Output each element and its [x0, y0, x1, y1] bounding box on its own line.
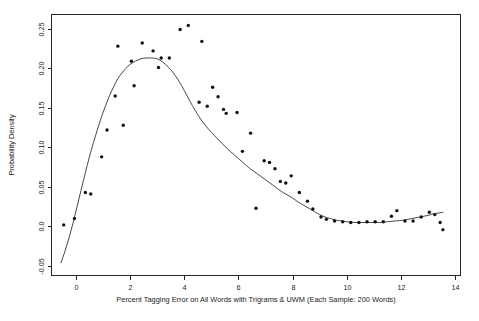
data-point — [333, 219, 336, 222]
data-point — [211, 86, 214, 89]
data-point — [411, 219, 414, 222]
y-tick-label: 0.10 — [37, 141, 46, 155]
data-point — [216, 95, 219, 98]
data-point — [284, 181, 287, 184]
data-point — [225, 112, 228, 115]
x-tick-label: 8 — [292, 283, 296, 292]
y-tick-label: 0.05 — [37, 181, 46, 195]
x-axis-ticks: 02468101214 — [75, 276, 460, 292]
data-point — [441, 228, 444, 231]
data-point — [122, 124, 125, 127]
x-tick-label: 6 — [237, 283, 241, 292]
fitted-density-curve — [61, 58, 443, 263]
data-point — [325, 218, 328, 221]
data-point — [428, 211, 431, 214]
data-point — [178, 28, 181, 31]
y-tick-label: 0.15 — [37, 102, 46, 116]
x-tick-label: 14 — [452, 283, 460, 292]
data-point — [254, 207, 257, 210]
x-axis-title: Percent Tagging Error on All Words with … — [116, 295, 395, 304]
data-point — [141, 41, 144, 44]
data-point — [365, 220, 368, 223]
data-point — [298, 191, 301, 194]
data-point — [130, 59, 133, 62]
density-plot-figure: -0.050.00.050.100.150.200.25 02468101214… — [0, 0, 479, 321]
data-point — [273, 167, 276, 170]
data-point — [433, 213, 436, 216]
plot-canvas: -0.050.00.050.100.150.200.25 02468101214… — [0, 0, 479, 321]
data-point — [168, 56, 171, 59]
data-point — [268, 161, 271, 164]
data-point — [311, 207, 314, 210]
x-tick-label: 4 — [183, 283, 187, 292]
data-point — [403, 219, 406, 222]
data-point — [306, 199, 309, 202]
data-point — [235, 111, 238, 114]
data-point — [319, 215, 322, 218]
data-point — [382, 220, 385, 223]
data-point — [62, 223, 65, 226]
data-point — [206, 105, 209, 108]
y-axis-ticks: -0.050.00.050.100.150.200.25 — [37, 23, 51, 275]
data-point — [113, 94, 116, 97]
data-point — [222, 108, 225, 111]
data-point — [349, 221, 352, 224]
data-point — [197, 101, 200, 104]
data-point — [116, 44, 119, 47]
fitted-curve-layer — [61, 58, 443, 263]
data-point — [341, 220, 344, 223]
y-tick-label: -0.05 — [37, 258, 46, 274]
data-point — [373, 220, 376, 223]
data-point — [249, 131, 252, 134]
data-point — [200, 40, 203, 43]
plot-frame — [52, 15, 461, 276]
x-tick-label: 2 — [129, 283, 133, 292]
data-point — [73, 217, 76, 220]
data-point — [262, 159, 265, 162]
plot-border — [52, 15, 461, 276]
y-axis-title: Probability Density — [7, 114, 16, 176]
data-point — [187, 24, 190, 27]
y-tick-label: 0.0 — [37, 222, 46, 232]
x-tick-label: 0 — [75, 283, 79, 292]
data-point — [420, 215, 423, 218]
data-point — [105, 128, 108, 131]
data-point — [438, 221, 441, 224]
data-point — [132, 84, 135, 87]
data-point — [241, 150, 244, 153]
data-point — [100, 155, 103, 158]
data-point — [290, 174, 293, 177]
data-point — [390, 214, 393, 217]
data-point — [160, 56, 163, 59]
x-tick-label: 10 — [344, 283, 352, 292]
data-point — [279, 180, 282, 183]
data-points-layer — [62, 24, 445, 231]
y-tick-label: 0.20 — [37, 62, 46, 76]
data-point — [151, 49, 154, 52]
data-point — [395, 209, 398, 212]
data-point — [357, 221, 360, 224]
y-tick-label: 0.25 — [37, 23, 46, 37]
x-tick-label: 12 — [398, 283, 406, 292]
data-point — [89, 192, 92, 195]
data-point — [157, 66, 160, 69]
data-point — [84, 191, 87, 194]
